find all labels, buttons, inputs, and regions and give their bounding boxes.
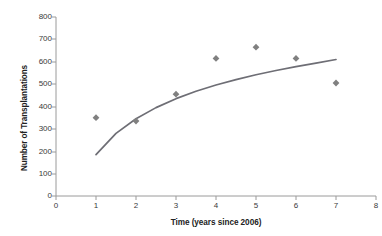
data-point-marker: [333, 80, 340, 87]
y-axis-ticks: [52, 17, 56, 196]
plot-area: [0, 0, 382, 236]
data-point-marker: [93, 114, 100, 121]
data-point-marker: [213, 55, 220, 62]
data-point-marker: [253, 44, 260, 51]
trendline: [96, 60, 336, 155]
data-point-marker: [173, 91, 180, 98]
data-point-marker: [293, 55, 300, 62]
data-point-markers: [93, 44, 340, 125]
chart-container: Number of Transplantations 800 700 600 5…: [0, 0, 382, 236]
data-point-marker: [133, 118, 140, 125]
x-axis-ticks: [56, 196, 376, 200]
